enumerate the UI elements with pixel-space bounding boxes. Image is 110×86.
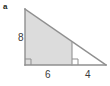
triangle-diagram-svg: [0, 0, 110, 86]
side-label-vertical: 8: [18, 33, 24, 43]
side-label-base-left: 6: [45, 70, 51, 80]
geometry-figure: a 8 6 4: [0, 0, 110, 86]
right-angle-marker-middle: [72, 59, 78, 65]
side-label-base-right: 4: [85, 70, 91, 80]
part-label-a: a: [3, 3, 7, 11]
